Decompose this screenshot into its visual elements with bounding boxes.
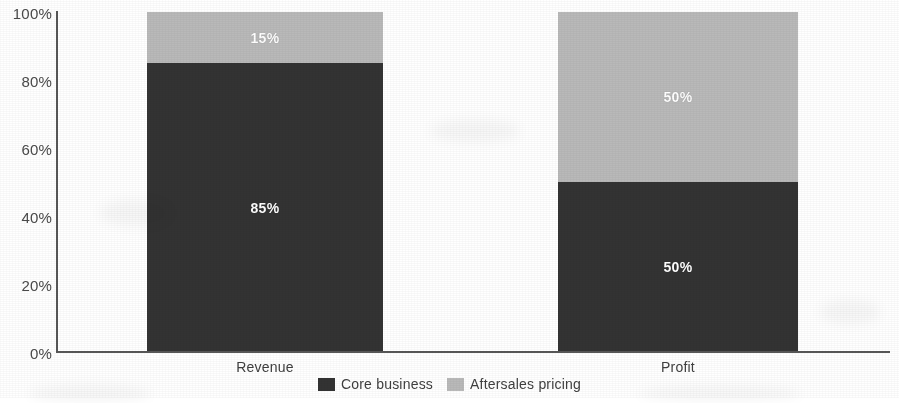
y-tick-80: 80% — [4, 74, 52, 89]
y-tick-0: 0% — [4, 346, 52, 361]
legend-swatch-icon — [318, 378, 335, 391]
chart-legend: Core business Aftersales pricing — [0, 376, 899, 392]
bar-revenue[interactable]: 15% 85% — [147, 12, 383, 352]
y-tick-100: 100% — [4, 6, 52, 21]
bar-segment-revenue-aftersales[interactable]: 15% — [147, 12, 383, 63]
y-axis-line — [56, 11, 58, 353]
bar-segment-profit-core[interactable]: 50% — [558, 182, 798, 352]
bar-segment-label: 50% — [664, 89, 693, 105]
bar-segment-label: 15% — [251, 30, 280, 46]
y-tick-60: 60% — [4, 142, 52, 157]
y-tick-40: 40% — [4, 210, 52, 225]
legend-label: Aftersales pricing — [470, 376, 581, 392]
bar-segment-profit-aftersales[interactable]: 50% — [558, 12, 798, 182]
legend-item-core-business[interactable]: Core business — [318, 376, 433, 392]
y-tick-20: 20% — [4, 278, 52, 293]
x-category-label-profit: Profit — [558, 359, 798, 375]
legend-swatch-icon — [447, 378, 464, 391]
plot-area: 15% 85% 50% 50% — [57, 12, 890, 352]
x-axis-line — [56, 351, 890, 353]
x-category-label-revenue: Revenue — [147, 359, 383, 375]
bar-segment-label: 50% — [664, 259, 693, 275]
bar-segment-label: 85% — [251, 200, 280, 216]
legend-item-aftersales-pricing[interactable]: Aftersales pricing — [447, 376, 581, 392]
bar-segment-revenue-core[interactable]: 85% — [147, 63, 383, 352]
bar-profit[interactable]: 50% 50% — [558, 12, 798, 352]
y-axis-tick-labels: 100% 80% 60% 40% 20% 0% — [0, 0, 52, 398]
legend-label: Core business — [341, 376, 433, 392]
